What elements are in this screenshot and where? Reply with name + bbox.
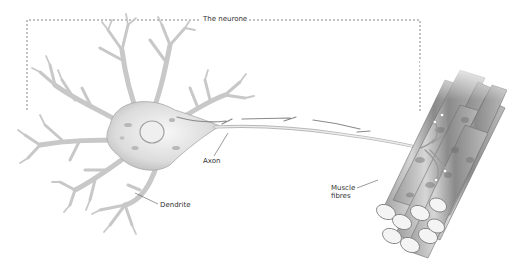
dendrite-label: Dendrite xyxy=(160,201,190,209)
muscle-fibres-label: Muscle fibres xyxy=(331,184,355,200)
nucleus xyxy=(140,121,164,143)
neurone-illustration xyxy=(0,0,507,260)
neurone-diagram: The neurone Axon Dendrite Muscle fibres xyxy=(0,0,507,260)
muscle-label-line1: Muscle xyxy=(331,184,355,192)
axon xyxy=(215,126,420,148)
muscle-fibre-bundle xyxy=(374,60,507,258)
diagram-title: The neurone xyxy=(201,15,249,23)
muscle-label-line2: fibres xyxy=(331,192,355,200)
axon-label: Axon xyxy=(203,157,220,165)
